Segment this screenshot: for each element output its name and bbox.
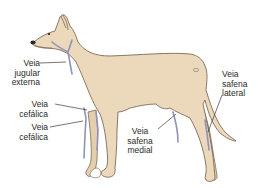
dog-nose <box>30 41 35 45</box>
label-veia-jugular-externa: Veia jugular externa <box>8 59 40 88</box>
leader-safena-medial <box>158 114 176 129</box>
dog-tail-base <box>194 69 199 72</box>
cephalic-vein-front <box>84 108 86 158</box>
dog-eye <box>48 33 50 35</box>
leader-cefalica-lower <box>50 121 83 127</box>
label-veia-cefalica-upper: Veia cefálica <box>10 100 48 119</box>
label-line: cefálica <box>10 110 48 120</box>
label-line: cefálica <box>10 133 48 143</box>
label-veia-safena-lateral: Veia safena lateral <box>222 70 262 99</box>
far-front-leg <box>86 110 98 176</box>
leader-jugular <box>40 62 66 63</box>
leader-cefalica-upper <box>55 104 87 110</box>
saphenous-medial-vein <box>173 112 178 142</box>
label-line: medial <box>120 146 160 156</box>
label-line: lateral <box>222 89 262 99</box>
label-veia-safena-medial: Veia safena medial <box>120 127 160 156</box>
label-veia-cefalica-lower: Veia cefálica <box>10 123 48 142</box>
label-line: externa <box>8 78 40 88</box>
dog-illustration <box>30 15 236 182</box>
dog-body <box>33 15 236 182</box>
